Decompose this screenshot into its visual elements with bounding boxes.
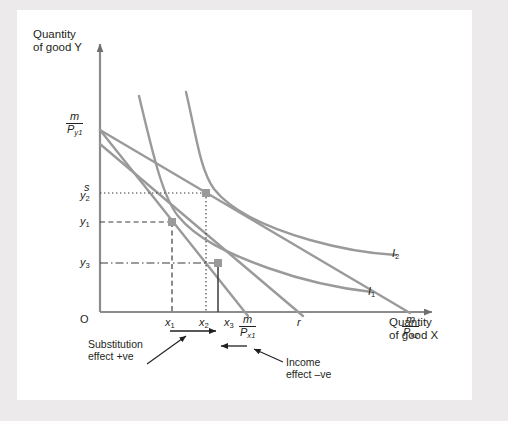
y-tick-m-over-py1-numerator: m <box>66 111 83 123</box>
curve-label-I2: I2 <box>392 247 399 260</box>
guide-y1 <box>100 222 172 312</box>
annotation-income-effect-line2: effect –ve <box>286 368 331 380</box>
x-tick-m-over-px2-numerator: m <box>402 314 419 326</box>
equilibrium-point-B <box>202 189 210 197</box>
x-tick-x2: x2 <box>199 316 209 329</box>
equilibrium-point-A <box>168 218 176 226</box>
y-axis-title-line2: of good Y <box>33 41 82 53</box>
annotation-substitution-effect-line2: effect +ve <box>88 350 134 362</box>
compensated-budget-line <box>100 144 303 316</box>
annotation-substitution-effect-line1: Substitution <box>88 338 143 350</box>
y-tick-m-over-py1: m Py1 <box>66 111 83 135</box>
x-tick-m-over-px2-denominator: Px2 <box>402 326 419 339</box>
annotation-income-effect-line1: Income <box>286 356 320 368</box>
y-axis-title: Quantity of good Y <box>33 28 82 55</box>
y-tick-y3: y3 <box>80 256 90 269</box>
x-tick-x3: x3 <box>224 316 234 329</box>
equilibrium-point-C <box>214 259 222 267</box>
y-axis-title-line1: Quantity <box>33 28 76 40</box>
annotation-substitution-effect: Substitution effect +ve <box>88 338 143 362</box>
curve-label-I1: I1 <box>368 285 375 298</box>
guide-y3 <box>100 263 218 312</box>
substitution-leader-line <box>147 336 186 364</box>
x-tick-r: r <box>297 316 301 329</box>
x-tick-m-over-px1-numerator: m <box>239 314 256 326</box>
annotation-income-effect: Income effect –ve <box>286 356 331 380</box>
x-tick-m-over-px1-denominator: Px1 <box>239 326 256 339</box>
x-tick-x1: x1 <box>165 316 175 329</box>
plot-canvas <box>0 0 508 421</box>
figure-root: Quantity of good Y Quantity of good X O … <box>0 0 508 421</box>
y-tick-y2: y2 <box>80 189 90 202</box>
indifference-curve-I2 <box>186 92 396 255</box>
x-tick-m-over-px1: m Px1 <box>239 314 256 338</box>
guide-y2 <box>100 193 206 312</box>
origin-label: O <box>80 313 89 326</box>
y-tick-m-over-py1-denominator: Py1 <box>66 123 83 136</box>
y-tick-y1: y1 <box>80 215 90 228</box>
income-leader-line <box>254 349 283 362</box>
x-tick-m-over-px2: m Px2 <box>402 314 419 338</box>
